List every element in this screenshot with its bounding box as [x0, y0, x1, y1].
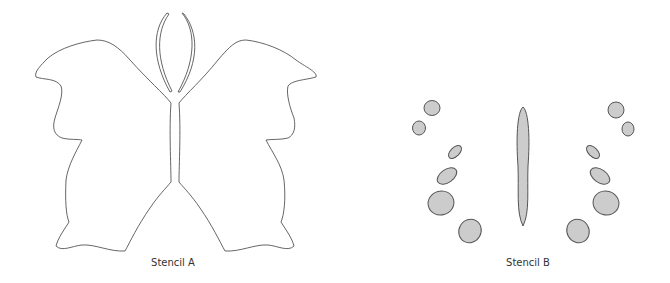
spot-left-3 — [446, 143, 464, 161]
spot-right-2 — [622, 122, 634, 136]
spot-left-2 — [413, 121, 426, 135]
stencil-canvas — [0, 0, 670, 283]
stencil-a-butterfly-outline — [36, 13, 317, 251]
body-spot — [517, 107, 529, 226]
spot-right-3 — [584, 143, 602, 161]
stencil-b-spots — [413, 101, 635, 247]
spot-right-5 — [590, 188, 621, 218]
spot-right-4 — [587, 164, 612, 187]
left-antenna — [156, 13, 172, 92]
stencil-b-caption: Stencil B — [478, 257, 578, 268]
butterfly-outline — [36, 40, 317, 251]
spot-left-1 — [424, 101, 440, 116]
spot-left-4 — [434, 164, 459, 187]
spot-left-6 — [454, 215, 485, 247]
spot-right-1 — [608, 102, 624, 118]
right-antenna — [178, 13, 195, 92]
stencil-a-caption: Stencil A — [123, 257, 223, 268]
spot-left-5 — [425, 188, 456, 218]
spot-right-6 — [562, 215, 593, 247]
